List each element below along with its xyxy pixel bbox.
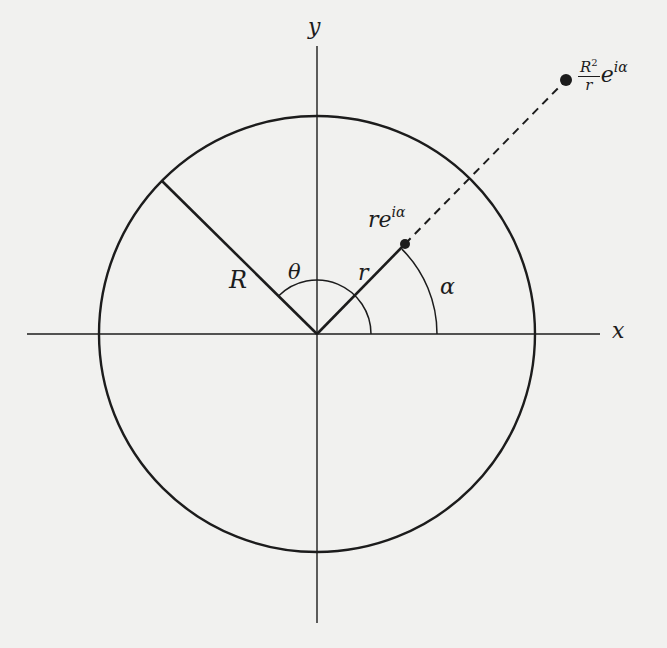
diagram-canvas: [0, 0, 667, 648]
y-axis-label: y: [308, 16, 320, 38]
point-re-i-alpha: [400, 239, 410, 249]
inverse-point-label: R2 r eiα: [578, 58, 628, 93]
fraction-denominator: r: [578, 77, 600, 93]
radius-R-segment: [162, 181, 317, 334]
re-i-alpha-label: reiα: [368, 205, 405, 231]
re-base: re: [368, 207, 392, 232]
re-exponent: iα: [392, 204, 406, 220]
e-exponent: iα: [614, 59, 628, 75]
theta-label: θ: [288, 262, 301, 283]
dashed-extension: [405, 80, 566, 244]
x-axis-label: x: [612, 320, 624, 342]
alpha-arc: [402, 249, 437, 334]
e-base: e: [601, 62, 614, 87]
segment-r: [317, 244, 405, 334]
numerator-exponent: 2: [591, 57, 597, 68]
fraction-numerator: R2: [578, 58, 600, 77]
R-label: R: [229, 268, 247, 292]
numerator-R: R: [580, 58, 591, 76]
point-inverse: [560, 74, 572, 86]
alpha-label: α: [440, 276, 455, 298]
r-label: r: [358, 262, 369, 284]
R-squared-over-r-fraction: R2 r: [578, 58, 600, 93]
